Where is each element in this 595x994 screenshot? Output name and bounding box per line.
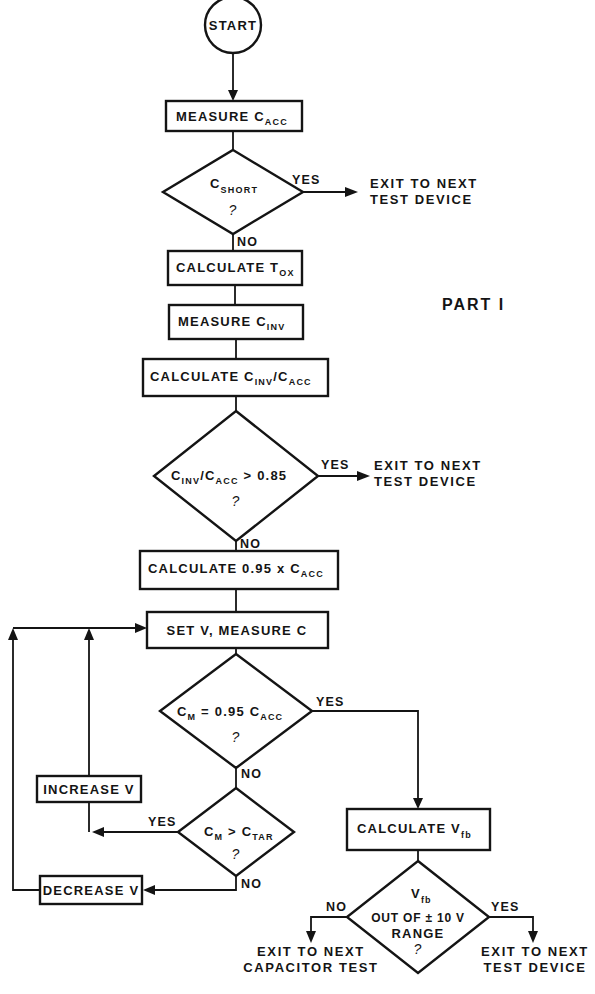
decision-cm-eq: CM = 0.95 CACC ? [160,654,312,768]
step-measure-cacc-main: MEASURE C [176,109,265,124]
exit-capacitor-test: EXIT TO NEXT CAPACITOR TEST [243,944,378,975]
step-calc-ratio-main: CALCULATE C [150,369,255,384]
yes-label-ratio: YES [321,458,350,472]
decision-cshort: CSHORT ? [163,150,303,234]
decision-vfb-range: Vfb OUT OF ± 10 V RANGE ? [347,861,489,973]
decision-cshort-sub: SHORT [221,185,259,195]
svg-text:TEST DEVICE: TEST DEVICE [484,960,587,975]
step-measure-cinv: MEASURE CINV [169,305,303,339]
step-calc-vfb: CALCULATE Vfb [347,809,490,850]
svg-text:?: ? [414,941,423,957]
step-calc-vfb-main: CALCULATE V [357,821,461,836]
step-calc-095-main: CALCULATE 0.95 x C [148,561,301,576]
step-increase-v: INCREASE V [37,776,141,802]
part-label: PART I [442,296,505,313]
exit-test-device-1: EXIT TO NEXT TEST DEVICE [370,176,478,207]
start-terminal: START [205,0,261,53]
svg-text:?: ? [232,846,241,862]
yes-label-cm-gt: YES [148,815,177,829]
svg-text:?: ? [232,729,241,745]
yes-label-cshort: YES [292,173,321,187]
svg-text:EXIT TO NEXT: EXIT TO NEXT [374,458,482,473]
yes-label-vfb: YES [491,900,520,914]
svg-text:EXIT TO NEXT: EXIT TO NEXT [257,944,365,959]
decision-cshort-q: ? [229,202,238,218]
svg-text:OUT OF ± 10 V: OUT OF ± 10 V [371,911,465,925]
decision-cshort-c: C [210,176,221,191]
start-label: START [209,18,257,33]
step-calc-tox-sub: OX [279,268,294,278]
svg-text:EXIT TO NEXT: EXIT TO NEXT [481,944,589,959]
svg-text:TEST DEVICE: TEST DEVICE [370,192,473,207]
no-label-cshort: NO [237,235,258,249]
step-calc-ratio: CALCULATE CINV/CACC [143,359,328,396]
step-set-v-label: SET V, MEASURE C [167,623,308,638]
exit-test-device-3: EXIT TO NEXT TEST DEVICE [481,944,589,975]
no-label-ratio: NO [240,537,261,551]
step-calc-tox: CALCULATE TOX [168,251,302,285]
exit-test-device-2: EXIT TO NEXT TEST DEVICE [374,458,482,489]
decision-ratio: CINV/CACC > 0.85 ? [154,411,318,541]
decision-cm-gt: CM > CTAR ? [178,788,294,876]
yes-label-cm-eq: YES [316,695,345,709]
no-label-cm-eq: NO [241,767,262,781]
no-label-vfb: NO [326,900,347,914]
svg-text:?: ? [232,493,241,509]
step-decrease-v: DECREASE V [40,876,142,904]
step-calc-095: CALCULATE 0.95 x CACC [140,551,338,589]
step-measure-cinv-sub: INV [267,322,286,332]
step-measure-cacc: MEASURE CACC [166,101,302,131]
step-increase-v-label: INCREASE V [43,782,134,797]
no-label-cm-gt: NO [241,877,262,891]
svg-text:CAPACITOR TEST: CAPACITOR TEST [243,960,378,975]
svg-text:TEST DEVICE: TEST DEVICE [374,474,477,489]
step-measure-cacc-sub: ACC [265,117,288,127]
step-decrease-v-label: DECREASE V [43,883,140,898]
svg-text:RANGE: RANGE [392,926,445,941]
step-calc-tox-main: CALCULATE T [176,260,279,275]
flowchart: START MEASURE CACC CSHORT ? YES NO EXIT … [0,0,595,994]
svg-text:EXIT TO NEXT: EXIT TO NEXT [370,176,478,191]
step-set-v: SET V, MEASURE C [147,612,328,648]
step-measure-cinv-main: MEASURE C [178,314,267,329]
